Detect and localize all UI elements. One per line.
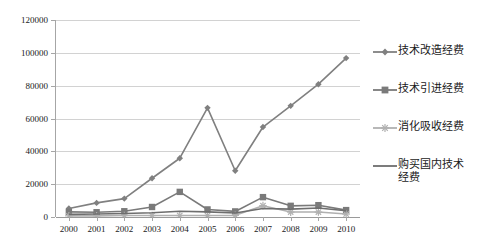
legend-label: 购买国内技术 经费 — [398, 158, 464, 184]
x-axis-tick — [318, 217, 319, 221]
y-axis-label: 60000 — [26, 115, 49, 124]
y-axis-label: 20000 — [26, 180, 49, 189]
series-0 — [66, 55, 350, 212]
x-axis-label: 2001 — [88, 224, 106, 234]
data-series-layer — [55, 20, 360, 217]
legend-item-0[interactable]: 技术改造经费 — [372, 44, 486, 59]
x-axis-tick — [152, 217, 153, 221]
x-axis-label: 2009 — [309, 224, 327, 234]
y-axis-label: 80000 — [26, 82, 49, 91]
y-axis-tick — [51, 217, 55, 218]
legend-label: 技术改造经费 — [398, 44, 464, 57]
x-axis-tick — [235, 217, 236, 221]
x-axis-label: 2005 — [199, 224, 217, 234]
asterisk-marker-icon — [372, 121, 398, 135]
y-axis-label: 40000 — [26, 147, 49, 156]
x-axis-label: 2004 — [171, 224, 189, 234]
x-axis-label: 2008 — [282, 224, 300, 234]
line-chart: 020000400006000080000100000120000 200020… — [0, 0, 486, 250]
square-marker-icon — [372, 83, 398, 97]
x-axis-label: 2010 — [337, 224, 355, 234]
x-axis-label: 2000 — [60, 224, 78, 234]
x-axis-label: 2006 — [226, 224, 244, 234]
x-axis-label: 2007 — [254, 224, 272, 234]
legend-item-1[interactable]: 技术引进经费 — [372, 82, 486, 97]
x-axis-tick — [263, 217, 264, 221]
x-axis-tick — [124, 217, 125, 221]
y-axis-label: 120000 — [21, 16, 48, 25]
legend-label: 技术引进经费 — [398, 82, 464, 95]
x-axis: 2000200120022003200420052006200720082009… — [55, 221, 360, 241]
diamond-marker-icon — [372, 45, 398, 59]
x-axis-tick — [346, 217, 347, 221]
x-axis-tick — [97, 217, 98, 221]
y-axis: 020000400006000080000100000120000 — [0, 0, 55, 237]
x-axis-tick — [180, 217, 181, 221]
x-axis-tick — [69, 217, 70, 221]
x-axis-tick — [208, 217, 209, 221]
x-axis-tick — [291, 217, 292, 221]
y-axis-label: 0 — [44, 213, 49, 222]
line-marker-icon — [372, 159, 398, 173]
legend-label: 消化吸收经费 — [398, 120, 464, 133]
x-axis-label: 2003 — [143, 224, 161, 234]
x-axis-label: 2002 — [115, 224, 133, 234]
legend-item-2[interactable]: 消化吸收经费 — [372, 120, 486, 135]
legend-item-3[interactable]: 购买国内技术 经费 — [372, 158, 486, 184]
y-axis-label: 100000 — [21, 49, 48, 58]
